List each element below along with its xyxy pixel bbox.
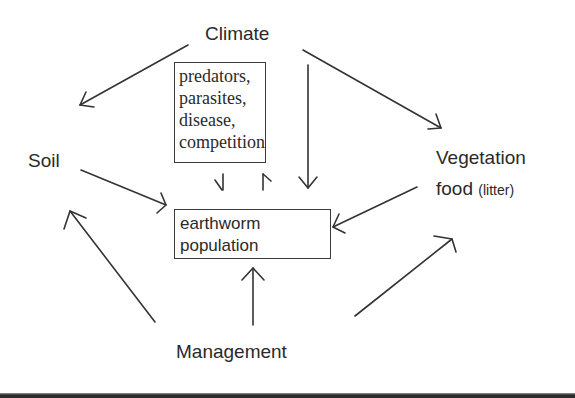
arrows-layer: [0, 0, 575, 398]
vegetation-label: Vegetation: [436, 147, 526, 168]
bottom-border-bar: [0, 393, 575, 398]
arrow-biotic-to-earthworm: [215, 174, 223, 190]
arrow-management-to-earthworm: [242, 268, 264, 325]
biotic-line: disease,: [179, 109, 261, 131]
biotic-line: parasites,: [179, 87, 261, 109]
arrow-earthworm-to-biotic: [263, 174, 271, 190]
arrow-climate-to-soil: [80, 45, 188, 107]
node-earthworm-population-box: earthworm population: [174, 209, 331, 259]
earthworm-line: population: [180, 235, 325, 257]
litter-note: (litter): [478, 182, 514, 198]
node-soil: Soil: [28, 151, 60, 170]
arrow-vegetation-to-earthworm: [333, 187, 417, 233]
node-vegetation-food: food (litter): [436, 179, 514, 198]
node-vegetation: Vegetation: [436, 148, 526, 167]
node-management: Management: [176, 342, 287, 361]
arrow-climate-to-vegetation: [303, 50, 441, 129]
earthworm-line: earthworm: [180, 213, 325, 235]
biotic-line: predators,: [179, 65, 261, 87]
arrow-soil-to-earthworm: [81, 170, 166, 213]
node-biotic-factors-box: predators, parasites, disease, competiti…: [174, 62, 266, 163]
arrow-management-to-vegetation: [355, 236, 456, 316]
arrow-management-to-soil: [64, 211, 155, 322]
earthworm-influence-diagram: Climate Soil Vegetation food (litter) Ma…: [0, 0, 575, 398]
arrow-climate-to-earthworm: [299, 65, 317, 188]
node-climate: Climate: [205, 24, 269, 43]
food-label: food: [436, 178, 473, 199]
biotic-line: competition: [179, 131, 261, 153]
